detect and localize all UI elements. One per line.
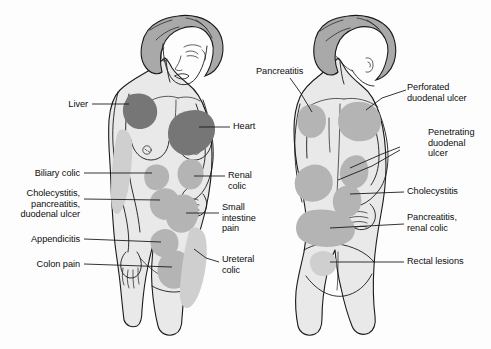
pain-region-renal-colic <box>177 159 203 189</box>
label-cholecystitis-pancreatitis-duodenal-ulcer: Cholecystitis, pancreatitis, duodenal ul… <box>0 188 80 220</box>
label-rectal-lesions: Rectal lesions <box>407 256 487 267</box>
label-cholecystitis-back: Cholecystitis <box>407 186 487 197</box>
label-pancreatitis-back: Pancreatitis <box>256 66 322 77</box>
pain-region-rectal-lesions <box>310 251 337 276</box>
anterior-figure <box>109 15 223 335</box>
posterior-figure <box>294 15 396 335</box>
pain-region-perforated-duodenal-ulcer <box>338 102 381 142</box>
label-ureteral-colic: Ureteral colic <box>222 254 280 275</box>
label-pancreatitis-renal-colic: Pancreatitis, renal colic <box>407 212 487 233</box>
label-small-intestine-pain: Small intestine pain <box>222 202 280 234</box>
label-appendicitis: Appendicitis <box>0 234 80 245</box>
label-penetrating-duodenal-ulcer: Penetrating duodenal ulcer <box>428 127 491 159</box>
label-perforated-duodenal-ulcer: Perforated duodenal ulcer <box>407 82 491 103</box>
label-heart: Heart <box>233 121 289 132</box>
label-renal-colic: Renal colic <box>228 170 280 191</box>
label-biliary-colic: Biliary colic <box>0 168 80 179</box>
pain-region-pancreatitis-back <box>297 104 326 137</box>
label-liver: Liver <box>18 99 88 110</box>
referred-pain-diagram: .bd{fill:#e9e9e9;stroke:#1a1a1a;stroke-w… <box>0 0 491 349</box>
label-colon-pain: Colon pain <box>0 259 80 270</box>
